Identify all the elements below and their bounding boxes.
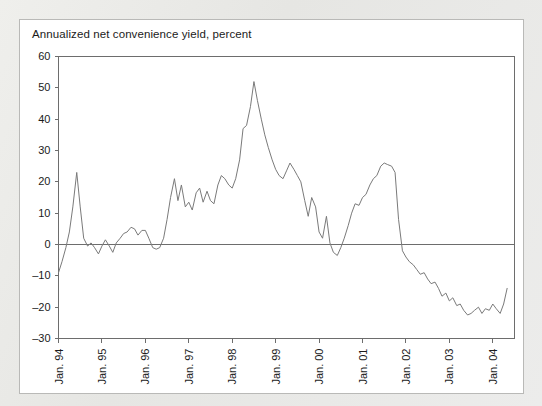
y-tick-group: –30–20–100102030405060 (32, 50, 58, 344)
x-tick-label: Jan. 01 (357, 349, 369, 385)
x-tick-label: Jan. 00 (313, 349, 325, 385)
x-tick-label: Jan. 04 (487, 349, 499, 385)
x-tick-label: Jan. 96 (139, 349, 151, 385)
x-tick-label: Jan. 99 (270, 349, 282, 385)
y-tick-label: 30 (38, 144, 50, 156)
y-tick-label: –10 (32, 269, 50, 281)
x-tick-group: Jan. 94Jan. 95Jan. 96Jan. 97Jan. 98Jan. … (53, 339, 499, 385)
series-line-annualized-net-convenience-yield (59, 82, 508, 315)
y-tick-label: 50 (38, 81, 50, 93)
y-tick-label: 20 (38, 175, 50, 187)
y-tick-label: 40 (38, 113, 50, 125)
x-tick-label: Jan. 94 (53, 349, 65, 385)
figure-root: Annualized net convenience yield, percen… (0, 0, 542, 406)
y-tick-label: –20 (32, 301, 50, 313)
y-tick-label: 0 (44, 238, 50, 250)
x-tick-label: Jan. 95 (96, 349, 108, 385)
x-tick-label: Jan. 02 (400, 349, 412, 385)
x-tick-label: Jan. 98 (226, 349, 238, 385)
x-tick-label: Jan. 03 (443, 349, 455, 385)
axes-group (59, 57, 515, 339)
y-tick-label: 10 (38, 207, 50, 219)
x-tick-label: Jan. 97 (183, 349, 195, 385)
y-tick-label: 60 (38, 50, 50, 62)
line-chart-plot: –30–20–100102030405060 Jan. 94Jan. 95Jan… (20, 20, 523, 393)
y-tick-label: –30 (32, 332, 50, 344)
chart-panel: Annualized net convenience yield, percen… (19, 19, 524, 394)
